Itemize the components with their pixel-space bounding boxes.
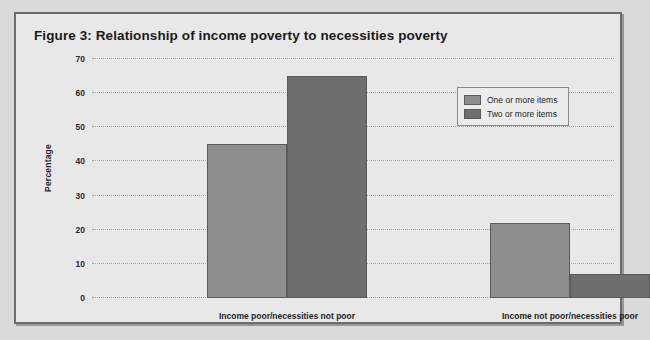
y-axis-tick-label: 30 (76, 191, 85, 201)
legend-label: One or more items (487, 95, 557, 105)
legend-item: One or more items (464, 93, 562, 106)
legend-swatch (464, 109, 481, 119)
gridline (92, 58, 614, 59)
legend-swatch (464, 95, 481, 105)
bar (207, 144, 287, 298)
bar (570, 274, 650, 298)
figure-container: Figure 3: Relationship of income poverty… (14, 12, 622, 324)
y-axis-tick-label: 0 (80, 293, 85, 303)
y-axis-tick-label: 10 (76, 259, 85, 269)
y-axis-tick-label: 40 (76, 156, 85, 166)
legend-label: Two or more items (487, 109, 557, 119)
legend-item: Two or more items (464, 107, 562, 120)
y-axis-tick-label: 70 (76, 54, 85, 64)
y-axis-tick-label: 60 (76, 88, 85, 98)
y-axis-title: Percentage (43, 144, 53, 192)
x-axis-tick-label: Income poor/necessities not poor (219, 311, 355, 321)
figure-title: Figure 3: Relationship of income poverty… (34, 28, 448, 43)
y-axis-tick-label: 20 (76, 225, 85, 235)
y-axis-tick-label: 50 (76, 122, 85, 132)
x-axis-tick-label: Income not poor/necessities poor (502, 311, 638, 321)
chart-legend: One or more itemsTwo or more items (457, 87, 569, 126)
bar (287, 76, 367, 298)
bar (490, 223, 570, 298)
